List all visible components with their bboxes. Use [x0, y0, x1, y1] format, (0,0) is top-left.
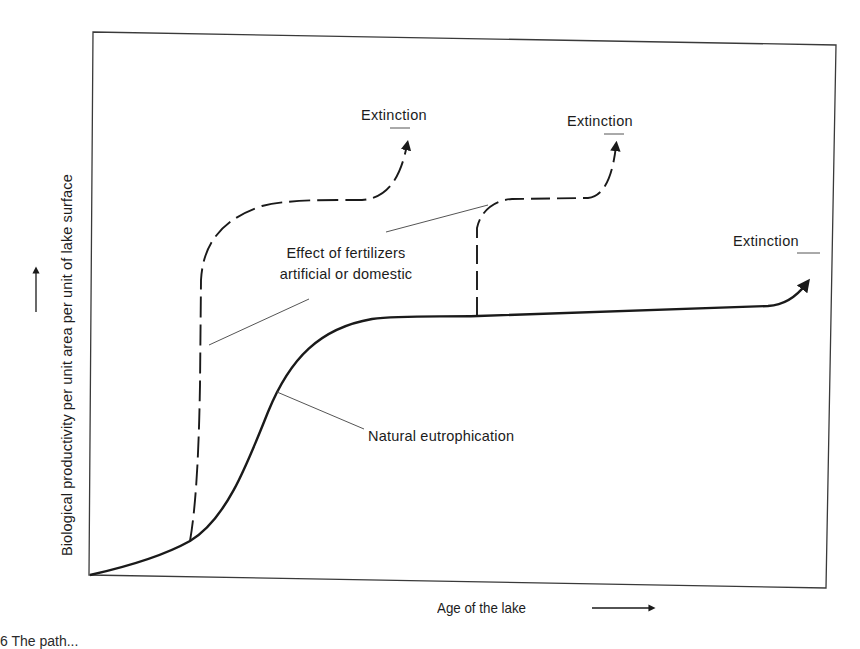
fertilizer-leader-line-lower — [209, 299, 309, 345]
natural-eutrophication-label: Natural eutrophication — [368, 428, 514, 444]
natural-leader-line — [277, 392, 364, 429]
fertilizer-early-curve — [190, 145, 407, 541]
fertilizer-annotation-line2: artificial or domestic — [251, 264, 441, 285]
fertilizer-leader-line-upper — [386, 205, 488, 232]
x-axis-label: Age of the lake — [437, 600, 526, 616]
fertilizer-late-curve — [477, 146, 616, 316]
extinction-label-natural: Extinction — [733, 233, 799, 249]
y-axis-label: Biological productivity per unit area pe… — [59, 174, 75, 556]
fertilizer-annotation-line1: Effect of fertilizers — [251, 243, 441, 264]
figure-caption-fragment: 6 The path... — [0, 633, 78, 649]
extinction-label-late: Extinction — [567, 113, 633, 129]
fertilizer-annotation: Effect of fertilizers artificial or dome… — [251, 243, 441, 285]
extinction-label-early: Extinction — [361, 107, 427, 123]
